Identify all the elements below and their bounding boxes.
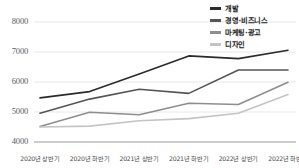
x-axis-tick: 2020년 상반기 <box>18 154 62 163</box>
legend-color-swatch <box>210 7 221 10</box>
legend-item[interactable]: 디자인 <box>210 38 298 50</box>
x-axis-tick: 2022년 하반기 <box>266 154 299 163</box>
x-axis-tick: 2020년 하반기 <box>68 154 112 163</box>
y-axis-tick: 7000 <box>2 46 28 56</box>
legend-item-label: 디자인 <box>225 39 245 49</box>
legend-item[interactable]: 개발 <box>210 2 298 14</box>
legend-item-label: 개발 <box>225 3 238 13</box>
y-axis-tick: 6000 <box>2 76 28 86</box>
y-axis-tick: 5000 <box>2 106 28 116</box>
series-line <box>40 70 288 113</box>
legend-item[interactable]: 마케팅·광고 <box>210 26 298 38</box>
legend-color-swatch <box>210 43 221 46</box>
legend-item-label: 경영·비즈니스 <box>225 15 268 25</box>
legend-color-swatch <box>210 31 221 34</box>
line-chart: 80007000600050004000 2020년 상반기2020년 하반기2… <box>0 0 299 168</box>
y-axis-tick: 4000 <box>2 136 28 146</box>
chart-legend: 개발경영·비즈니스마케팅·광고디자인 <box>210 2 298 50</box>
legend-item-label: 마케팅·광고 <box>225 27 261 37</box>
y-axis-tick: 8000 <box>2 16 28 26</box>
x-axis-tick: 2022년 상반기 <box>216 154 260 163</box>
legend-color-swatch <box>210 19 221 22</box>
legend-item[interactable]: 경영·비즈니스 <box>210 14 298 26</box>
series-lines <box>40 50 288 127</box>
x-axis-tick: 2021년 하반기 <box>167 154 211 163</box>
x-axis-tick: 2021년 상반기 <box>117 154 161 163</box>
